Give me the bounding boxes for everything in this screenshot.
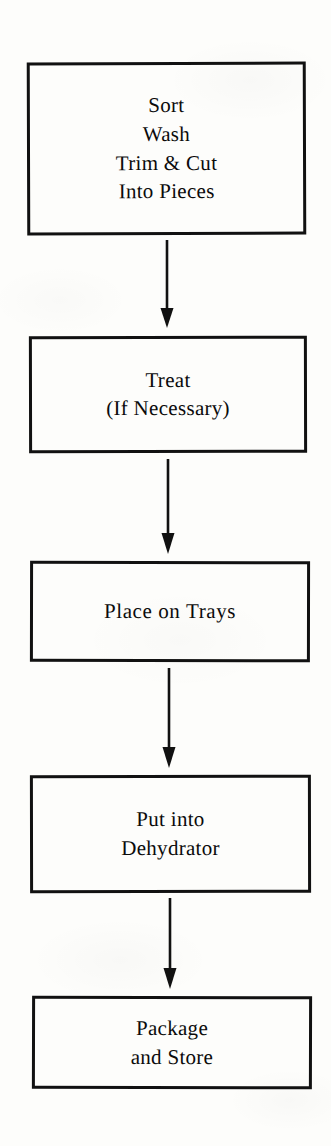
flow-node-label: Put into Dehydrator (121, 805, 220, 862)
flow-node-label: Sort Wash Trim & Cut Into Pieces (116, 91, 218, 206)
flow-node-place-on-trays: Place on Trays (30, 561, 310, 662)
flow-arrow-dehydrator-to-package (0, 898, 331, 991)
flow-node-label: Package and Store (131, 1014, 214, 1070)
flow-node-label: Place on Trays (104, 597, 236, 625)
flow-arrow-trays-to-dehydrator (0, 668, 331, 770)
flowchart-diagram: Sort Wash Trim & Cut Into Pieces Treat (… (0, 0, 331, 1146)
flow-node-put-into-dehydrator: Put into Dehydrator (30, 775, 311, 893)
flow-arrow-treat-to-trays (0, 459, 331, 556)
flow-arrow-sort-to-treat (0, 240, 331, 330)
flow-node-treat: Treat (If Necessary) (29, 336, 307, 454)
flow-node-sort-wash-trim: Sort Wash Trim & Cut Into Pieces (27, 62, 307, 236)
flow-node-label: Treat (If Necessary) (106, 366, 230, 422)
flow-node-package-and-store: Package and Store (32, 996, 312, 1090)
